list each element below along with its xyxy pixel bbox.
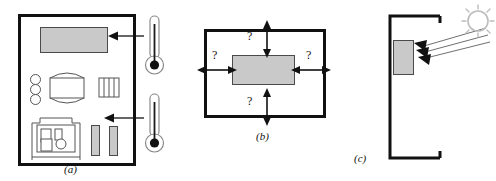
thermometer-upper-icon [144, 14, 166, 78]
pointer-arrow-upper [108, 30, 146, 44]
flow-marker-left: ? [212, 48, 217, 63]
panel-b: ? ? ? ? (b) [190, 0, 340, 181]
panel-c: (c) [348, 0, 496, 181]
flow-arrow-right [291, 63, 331, 77]
flow-arrow-left [197, 63, 237, 77]
table-icon [44, 70, 92, 106]
panel-label-c: (c) [354, 152, 366, 164]
flow-marker-bottom: ? [247, 94, 252, 109]
thermometer-lower-icon [144, 92, 166, 156]
flow-arrow-bottom [260, 88, 274, 128]
sun-icon [456, 2, 496, 42]
panel-label-b: (b) [256, 130, 269, 142]
flow-marker-right: ? [306, 48, 311, 63]
panel-label-a: (a) [64, 163, 77, 175]
panel-a: (a) [0, 0, 182, 181]
flow-marker-top: ? [247, 29, 252, 44]
circle-icon [30, 94, 41, 105]
gray-bar-icon [109, 126, 118, 156]
ray-arrowhead [418, 54, 431, 65]
hatched-panel-icon [99, 78, 121, 99]
gray-bar-icon [91, 125, 100, 156]
display-rectangle-icon [40, 27, 108, 53]
equipment-outline-icon [28, 115, 86, 161]
flow-arrow-top [260, 20, 274, 60]
pointer-arrow-lower [104, 112, 146, 126]
